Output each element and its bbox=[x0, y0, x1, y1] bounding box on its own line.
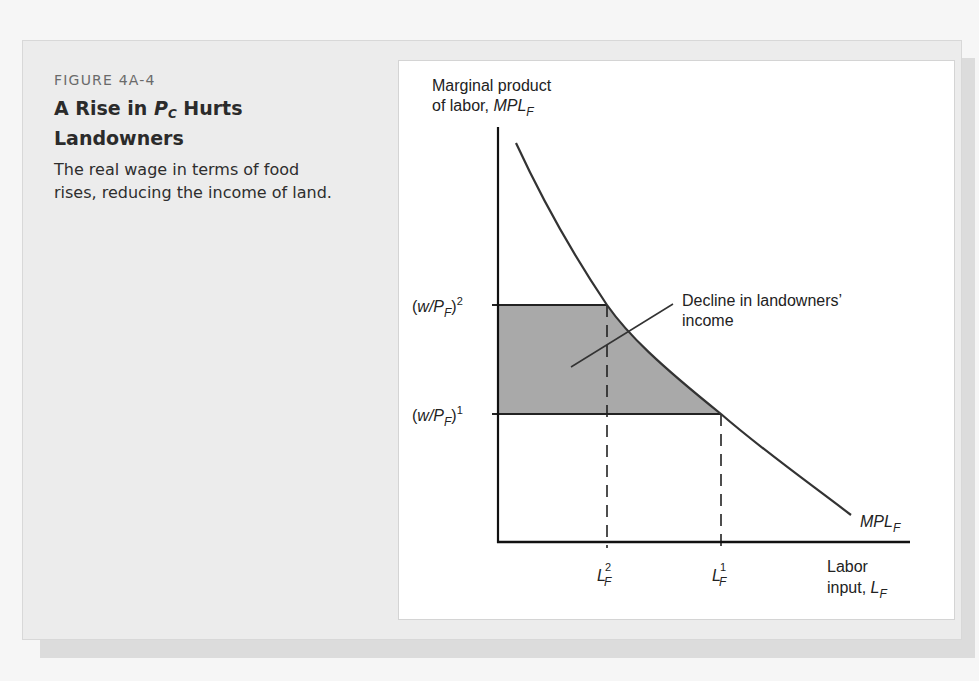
y-axis-label-line2: of labor, MPLF bbox=[432, 97, 534, 119]
mpl-chart: Marginal product of labor, MPLF (w/PF)2 … bbox=[0, 0, 979, 681]
x-tick-L1: L1F bbox=[712, 561, 727, 589]
annotation-label-line2: income bbox=[682, 312, 734, 329]
y-axis-label: Marginal product bbox=[432, 77, 552, 94]
curve-label: MPLF bbox=[860, 513, 901, 535]
annotation-label: Decline in landowners’ bbox=[682, 292, 842, 309]
y-tick-wage-2: (w/PF)2 bbox=[412, 295, 463, 320]
y-tick-wage-1: (w/PF)1 bbox=[412, 404, 463, 429]
x-axis-label: Labor bbox=[827, 558, 869, 575]
x-tick-L2: L2F bbox=[597, 561, 612, 589]
x-axis-label-line2: input, LF bbox=[827, 579, 888, 601]
